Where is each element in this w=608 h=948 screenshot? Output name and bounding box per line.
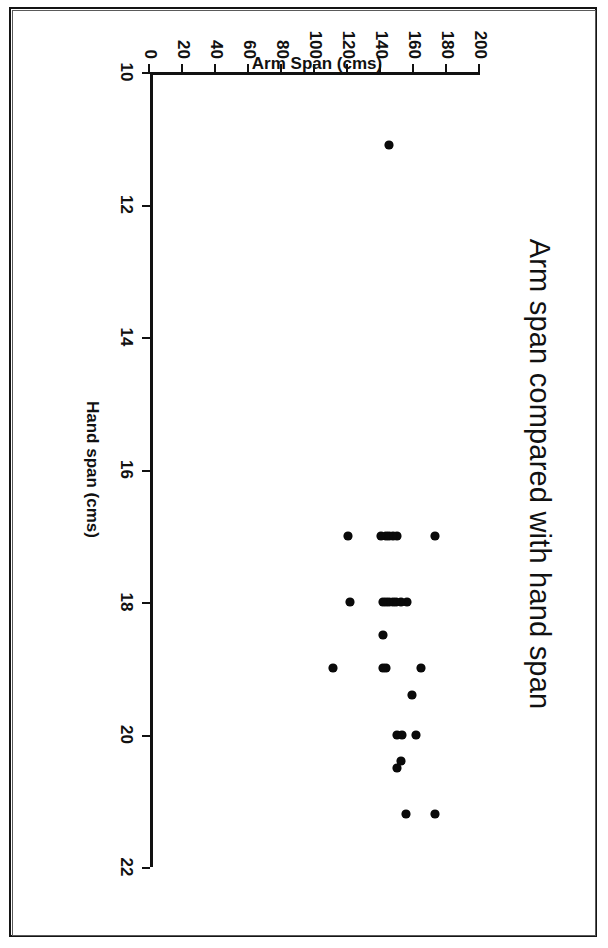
y-tick	[478, 64, 480, 72]
y-tick-label: 20	[173, 40, 193, 59]
data-point	[412, 731, 420, 739]
x-tick	[142, 470, 150, 472]
x-tick	[142, 72, 150, 74]
scanned-page: Arm span compared with hand span 1012141…	[0, 0, 608, 948]
data-point	[402, 810, 410, 818]
data-point	[408, 691, 416, 699]
data-point	[379, 664, 387, 672]
data-point	[431, 810, 439, 818]
y-tick-label: 180	[437, 31, 457, 59]
x-tick-label: 14	[116, 328, 136, 347]
x-tick-label: 18	[116, 593, 136, 612]
rotated-figure-container: Arm span compared with hand span 1012141…	[0, 0, 608, 948]
scatter-chart: Arm span compared with hand span 1012141…	[0, 0, 608, 948]
data-point	[329, 664, 337, 672]
x-tick-label: 12	[116, 195, 136, 214]
x-tick	[142, 602, 150, 604]
x-tick	[142, 735, 150, 737]
y-tick	[148, 64, 150, 72]
y-tick	[181, 64, 183, 72]
x-tick-label: 20	[116, 725, 136, 744]
x-tick-label: 16	[116, 460, 136, 479]
x-tick	[142, 337, 150, 339]
y-axis-label: Arm Span (cms)	[207, 54, 427, 74]
data-point	[431, 532, 439, 540]
x-axis-label: Hand span (cms)	[82, 72, 102, 867]
y-tick	[445, 64, 447, 72]
data-point	[377, 532, 385, 540]
data-point	[344, 532, 352, 540]
x-tick-label: 22	[116, 858, 136, 877]
x-tick	[142, 205, 150, 207]
data-point	[417, 664, 425, 672]
data-point	[394, 764, 402, 772]
data-point	[379, 631, 387, 639]
y-tick-label: 200	[470, 31, 490, 59]
plot-area: 10121416182022 0204060801001201401601802…	[150, 72, 480, 867]
x-tick	[142, 867, 150, 869]
x-axis-line	[150, 72, 153, 867]
data-point	[379, 598, 387, 606]
data-point	[385, 141, 393, 149]
y-tick-label: 0	[140, 50, 160, 59]
chart-title: Arm span compared with hand span	[523, 0, 556, 948]
data-point	[346, 598, 354, 606]
x-tick-label: 10	[116, 63, 136, 82]
